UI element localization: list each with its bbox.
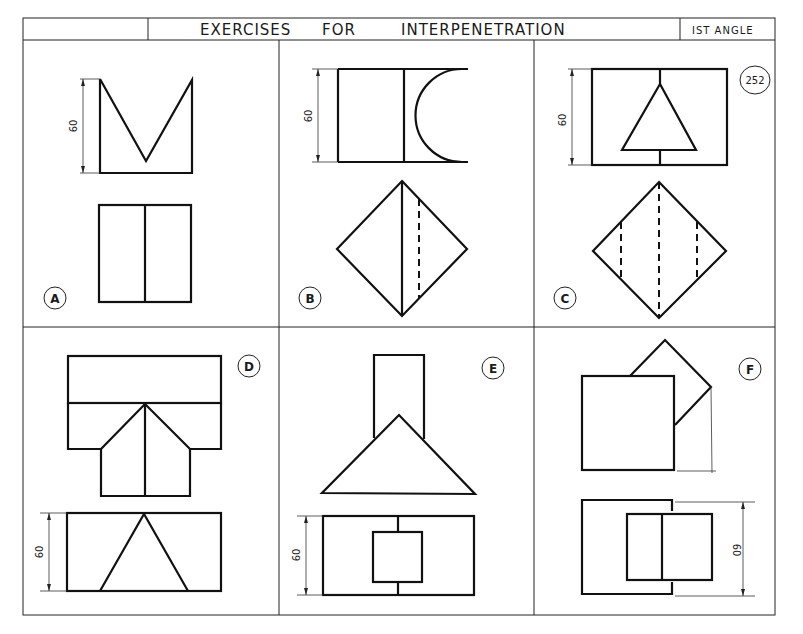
sheet-number-badge: 252 (740, 66, 770, 94)
svg-text:60: 60 (557, 114, 568, 127)
exercise-label-f: F (746, 363, 754, 377)
sheet-number: 252 (745, 75, 764, 86)
exercise-label-a: A (50, 292, 60, 306)
dimension-d: 60 (34, 513, 67, 591)
dimension-a: 60 (68, 79, 100, 173)
exercise-label-b: B (305, 292, 314, 306)
exercise-c: 60 C (554, 69, 727, 318)
exercise-f: 60 F (582, 340, 761, 596)
svg-text:60: 60 (68, 120, 79, 133)
exercise-b: 60 B (299, 69, 468, 316)
svg-text:60: 60 (291, 549, 302, 562)
title-block: EXERCISES FOR INTERPENETRATION IST ANGLE (200, 21, 754, 39)
drawing-sheet: EXERCISES FOR INTERPENETRATION IST ANGLE… (0, 0, 803, 634)
title-word-interpenetration: INTERPENETRATION (401, 21, 566, 39)
exercise-a: 60 A (44, 79, 192, 309)
exercise-d: 60 D (34, 355, 260, 591)
projection-label: IST ANGLE (692, 25, 754, 36)
exercise-e: 60 E (291, 355, 504, 595)
exercise-label-c: C (561, 292, 570, 306)
svg-text:60: 60 (303, 110, 314, 123)
svg-text:60: 60 (34, 546, 45, 559)
svg-text:60: 60 (731, 544, 742, 557)
dimension-e: 60 (291, 516, 323, 595)
dimension-f: 60 (675, 502, 755, 596)
dimension-c: 60 (557, 69, 592, 165)
title-word-for: FOR (322, 21, 356, 39)
exercise-label-d: D (244, 360, 254, 374)
title-word-exercises: EXERCISES (200, 21, 291, 39)
exercise-label-e: E (489, 362, 497, 376)
dimension-b: 60 (303, 69, 338, 162)
